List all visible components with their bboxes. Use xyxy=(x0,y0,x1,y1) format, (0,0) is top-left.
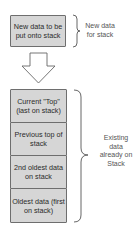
stack-item-second-oldest: 2nd oldest data on stack xyxy=(10,155,67,189)
stack-brace-icon xyxy=(74,90,88,222)
new-data-annotation: New data for stack xyxy=(82,22,118,39)
down-arrow-icon xyxy=(22,53,55,83)
stack-annotation: Existing data already on Stack xyxy=(99,134,133,168)
new-data-box: New data to be put onto stack xyxy=(10,15,66,47)
stack-item-oldest: Oldest data (first on stack) xyxy=(10,188,67,223)
stack-item-previous-top: Previous top of stack xyxy=(10,122,67,156)
new-data-brace-icon xyxy=(73,15,80,47)
new-data-label: New data to be put onto stack xyxy=(11,22,65,40)
stack-item-top: Current "Top" (last on stack) xyxy=(10,89,67,123)
